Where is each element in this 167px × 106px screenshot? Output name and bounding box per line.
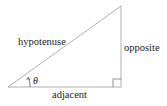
opposite-label: opposite: [124, 42, 160, 53]
right-triangle-diagram: θ hypotenuse opposite adjacent: [0, 0, 167, 106]
adjacent-label: adjacent: [52, 89, 87, 100]
right-angle-marker: [113, 79, 121, 87]
angle-label: θ: [33, 75, 38, 86]
angle-arrowhead-icon: [27, 77, 31, 80]
hypotenuse-label: hypotenuse: [18, 36, 66, 47]
